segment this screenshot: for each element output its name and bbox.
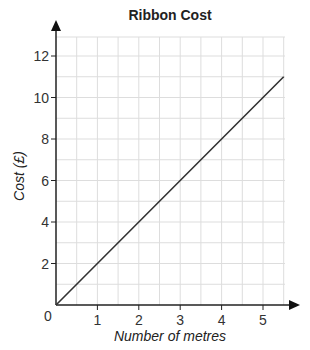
chart-canvas: 1234524681012 0 Number of metres Cost (£… (0, 0, 310, 350)
x-axis-label: Number of metres (114, 328, 226, 344)
y-tick-label: 8 (41, 131, 49, 147)
y-tick-label: 2 (41, 256, 49, 272)
x-tick-label: 2 (135, 312, 143, 328)
x-tick-label: 4 (218, 312, 226, 328)
x-tick-label: 5 (259, 312, 267, 328)
y-tick-label: 6 (41, 173, 49, 189)
x-tick-label: 3 (176, 312, 184, 328)
grid (56, 37, 285, 305)
x-tick-label: 1 (94, 312, 102, 328)
origin-label: 0 (44, 308, 52, 324)
data-line (56, 77, 284, 305)
y-tick-label: 12 (33, 48, 49, 64)
ticks: 1234524681012 (33, 48, 267, 328)
y-tick-label: 10 (33, 90, 49, 106)
y-axis-arrow-icon (51, 20, 61, 31)
x-axis-arrow-icon (289, 300, 300, 310)
y-axis-label: Cost (£) (11, 151, 27, 201)
y-tick-label: 4 (41, 214, 49, 230)
